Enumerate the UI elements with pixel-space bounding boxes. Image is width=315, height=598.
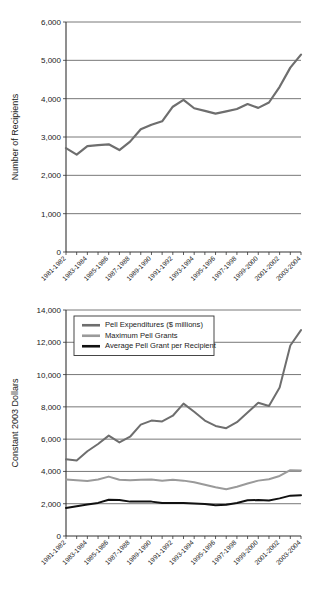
y-tick-label: 8,000 [41, 403, 62, 412]
y-tick-label: 5,000 [41, 56, 62, 65]
y-tick-label: 3,000 [41, 133, 62, 142]
y-tick-label: 2,000 [41, 171, 62, 180]
y-tick-label: 14,000 [37, 306, 62, 315]
y-tick-label: 10,000 [37, 371, 62, 380]
legend-label-1: Maximum Pell Grants [105, 331, 178, 340]
y-tick-label: 2,000 [41, 500, 62, 509]
y-axis-title: Number of Recipients [10, 93, 20, 180]
y-tick-label: 6,000 [41, 18, 62, 27]
y-tick-label: 12,000 [37, 338, 62, 347]
y-tick-label: 4,000 [41, 467, 62, 476]
series-line-0 [66, 55, 301, 155]
legend-label-2: Average Pell Grant per Recipient [105, 341, 217, 350]
y-axis-title: Constant 2003 Dollars [10, 378, 20, 468]
y-tick-label: 4,000 [41, 95, 62, 104]
legend-label-0: Pell Expenditures ($ millions) [105, 320, 203, 329]
recipients-chart-svg: 01,0002,0003,0004,0005,0006,0001981-1982… [0, 0, 315, 300]
figure-page: 01,0002,0003,0004,0005,0006,0001981-1982… [0, 0, 315, 598]
series-line-2 [66, 495, 301, 508]
y-tick-label: 6,000 [41, 435, 62, 444]
dollars-chart-svg: 02,0004,0006,0008,00010,00012,00014,0001… [0, 300, 315, 598]
y-tick-label: 1,000 [41, 210, 62, 219]
series-line-1 [66, 470, 301, 489]
pell-grant-constant-dollars-chart: 02,0004,0006,0008,00010,00012,00014,0001… [0, 300, 315, 598]
pell-grant-recipients-chart: 01,0002,0003,0004,0005,0006,0001981-1982… [0, 0, 315, 300]
